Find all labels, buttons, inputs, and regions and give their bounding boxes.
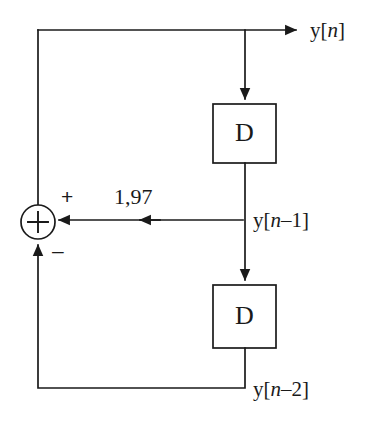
signal-delay1-tail: –1] (281, 208, 309, 232)
signal-delay2-tail: –2] (281, 377, 309, 401)
delay-block-upper-label: D (235, 120, 254, 146)
signal-label-delay-1: y[n–1] (253, 210, 309, 231)
signal-output-base: y[ (310, 18, 328, 42)
signal-delay2-var: n (271, 377, 282, 401)
signal-delay1-var: n (271, 208, 282, 232)
signal-output-tail: ] (338, 18, 345, 42)
signal-label-output: y[n] (310, 20, 345, 41)
diagram-canvas (0, 0, 383, 433)
signal-delay2-base: y[ (253, 377, 271, 401)
signal-label-delay-2: y[n–2] (253, 379, 309, 400)
signal-output-var: n (328, 18, 339, 42)
gain-coefficient-label: 1,97 (114, 186, 153, 208)
signal-delay1-base: y[ (253, 208, 271, 232)
delay-block-lower-label: D (235, 303, 254, 329)
adder-minus-sign: – (52, 240, 64, 261)
adder-plus-sign: + (61, 186, 73, 207)
signal-flow-diagram: D D + – 1,97 y[n] y[n–1] y[n–2] (0, 0, 383, 433)
